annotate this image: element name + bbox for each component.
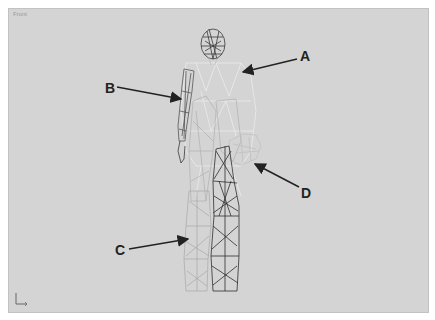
left-leg-dark-wireframe	[211, 146, 239, 291]
right-leg-light-wireframe	[184, 191, 211, 291]
wireframe-scene	[9, 9, 429, 313]
callout-label-a: A	[300, 48, 310, 64]
upper-legs-wireframe	[189, 96, 241, 201]
callout-label-c: C	[115, 242, 125, 258]
callout-label-d: D	[301, 185, 311, 201]
head-wireframe	[201, 29, 225, 59]
callout-arrow-d	[255, 164, 299, 187]
callout-label-b: B	[105, 80, 115, 96]
callout-arrow-b	[117, 87, 181, 99]
callout-arrow-a	[243, 59, 297, 72]
callout-arrow-c	[129, 239, 188, 249]
3d-viewport[interactable]: Front	[8, 8, 429, 313]
axis-gizmo-icon	[13, 291, 33, 307]
